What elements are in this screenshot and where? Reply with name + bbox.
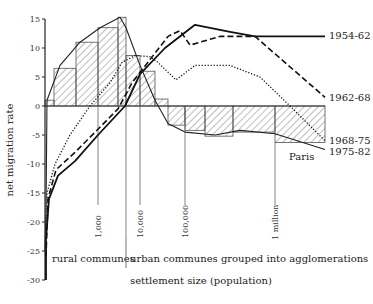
histogram-bar — [168, 106, 185, 125]
y-tick-label: -5 — [32, 131, 40, 140]
reference-line-label: 100,000 — [181, 205, 190, 238]
y-tick-label: -10 — [27, 160, 40, 169]
histogram-bar — [140, 71, 155, 106]
y-tick-label: -25 — [27, 247, 40, 256]
y-tick-label: 10 — [30, 44, 40, 53]
y-axis: 151050-5-10-15-20-25-30 — [27, 15, 45, 285]
histogram-bar — [275, 106, 325, 143]
histogram-bar — [98, 28, 118, 106]
chart: 1,00010,000100,0001 million 151050-5-10-… — [0, 0, 373, 304]
series-label-1962-68: 1962-68 — [329, 92, 371, 103]
histogram-bar — [155, 99, 168, 106]
series-label-1954-62: 1954-62 — [329, 30, 371, 41]
histogram-bar — [45, 100, 54, 106]
y-tick-label: -15 — [27, 189, 40, 198]
series-label-1968-75: 1968-75 — [329, 135, 371, 146]
y-tick-label: 5 — [35, 73, 40, 82]
y-tick-label: -30 — [27, 276, 40, 285]
urban-communes-label: urban communes grouped into agglomeratio… — [130, 253, 368, 264]
histogram-bar — [76, 42, 98, 106]
rural-communes-label: rural communes — [52, 253, 135, 264]
y-tick-label: 0 — [35, 102, 40, 111]
y-tick-label: -20 — [27, 218, 40, 227]
y-axis-label: net migration rate — [4, 103, 15, 196]
histogram-bar — [205, 106, 233, 136]
y-tick-label: 15 — [30, 15, 40, 24]
reference-line-label: 1,000 — [94, 215, 103, 238]
series-label-1975-82: 1975-82 — [329, 146, 371, 157]
reference-line-label: 1 million — [271, 205, 280, 240]
paris-annotation: Paris — [289, 151, 314, 162]
x-axis-label: settlement size (population) — [130, 275, 272, 286]
histogram-bar — [185, 106, 205, 130]
histogram-bar — [233, 106, 275, 132]
reference-line-label: 10,000 — [136, 210, 145, 238]
